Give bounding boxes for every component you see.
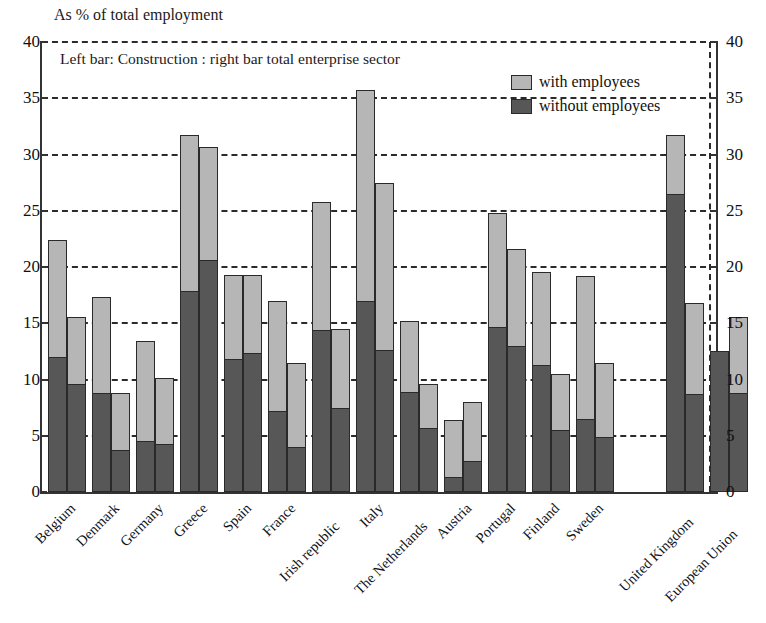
- bar-segment-without-employees: [48, 357, 67, 492]
- bar-total-enterprise-sector: [287, 363, 306, 492]
- bar-segment-without-employees: [685, 394, 704, 492]
- category-label: Sweden: [454, 500, 607, 623]
- tick-label-right: 30: [726, 146, 756, 163]
- tick-label-right: 5: [726, 427, 756, 444]
- bar-segment-without-employees: [666, 194, 685, 492]
- tick-label-right: 15: [726, 314, 756, 331]
- x-axis-category-labels: BelgiumDenmarkGermanyGreeceSpainFranceIr…: [0, 496, 766, 623]
- bar-construction: [312, 202, 331, 492]
- bar-segment-without-employees: [243, 353, 262, 493]
- bar-segment-without-employees: [356, 301, 375, 492]
- bar-construction: [666, 135, 685, 492]
- bar-total-enterprise-sector: [155, 378, 174, 492]
- bar-total-enterprise-sector: [111, 393, 130, 492]
- bar-segment-without-employees: [199, 260, 218, 492]
- bar-construction: [400, 321, 419, 492]
- bar-construction: [136, 341, 155, 492]
- tick-label-right: 10: [726, 371, 756, 388]
- bar-total-enterprise-sector: [463, 402, 482, 492]
- tick-label-left: 10: [10, 371, 40, 388]
- bar-construction: [576, 276, 595, 492]
- bar-segment-without-employees: [312, 330, 331, 492]
- legend-item-without-employees: without employees: [511, 94, 721, 118]
- bar-construction: [180, 135, 199, 492]
- x-axis: [40, 492, 718, 494]
- legend: with employees without employees: [511, 70, 721, 118]
- bar-total-enterprise-sector: [729, 317, 748, 493]
- bar-construction: [532, 272, 551, 493]
- bar-construction: [48, 240, 67, 492]
- legend-label: without employees: [539, 97, 660, 115]
- bar-segment-without-employees: [532, 365, 551, 492]
- bar-segment-without-employees: [595, 437, 614, 492]
- bar-total-enterprise-sector: [419, 384, 438, 492]
- tick-label-left: 25: [10, 202, 40, 219]
- bar-segment-without-employees: [400, 392, 419, 492]
- bar-segment-without-employees: [287, 447, 306, 492]
- chart-title: As % of total employment: [54, 6, 223, 24]
- legend-item-with-employees: with employees: [511, 70, 721, 94]
- bar-segment-without-employees: [224, 359, 243, 492]
- bar-total-enterprise-sector: [507, 249, 526, 492]
- bar-total-enterprise-sector: [331, 329, 350, 492]
- bar-segment-without-employees: [375, 350, 394, 492]
- legend-label: with employees: [539, 73, 640, 91]
- bar-construction: [488, 213, 507, 492]
- bar-construction: [268, 301, 287, 492]
- bar-segment-without-employees: [444, 477, 463, 492]
- bar-segment-without-employees: [92, 393, 111, 492]
- bar-chart: As % of total employment Left bar: Const…: [0, 0, 766, 623]
- tick-label-right: 40: [726, 33, 756, 50]
- tick-label-left: 20: [10, 258, 40, 275]
- bar-segment-without-employees: [155, 444, 174, 492]
- tick-label-left: 5: [10, 427, 40, 444]
- bar-segment-without-employees: [67, 384, 86, 492]
- bar-segment-without-employees: [551, 430, 570, 492]
- bar-total-enterprise-sector: [551, 374, 570, 492]
- bar-segment-without-employees: [419, 428, 438, 492]
- legend-swatch-icon: [511, 99, 532, 114]
- tick-label-left: 35: [10, 89, 40, 106]
- tick-label-right: 35: [726, 89, 756, 106]
- bar-total-enterprise-sector: [199, 147, 218, 492]
- bar-segment-without-employees: [180, 291, 199, 492]
- tick-label-right: 25: [726, 202, 756, 219]
- bar-segment-without-employees: [268, 411, 287, 492]
- bar-total-enterprise-sector: [243, 275, 262, 492]
- tick-label-left: 15: [10, 314, 40, 331]
- tick-label-right: 20: [726, 258, 756, 275]
- tick-label-left: 40: [10, 33, 40, 50]
- bar-construction: [92, 297, 111, 492]
- bar-construction: [224, 275, 243, 492]
- bar-total-enterprise-sector: [375, 183, 394, 492]
- bar-segment-without-employees: [576, 419, 595, 492]
- bar-segment-without-employees: [331, 408, 350, 492]
- bar-segment-without-employees: [488, 327, 507, 492]
- bar-total-enterprise-sector: [685, 303, 704, 492]
- bar-total-enterprise-sector: [595, 363, 614, 492]
- tick-label-left: 30: [10, 146, 40, 163]
- bar-segment-without-employees: [463, 461, 482, 493]
- bar-construction: [444, 420, 463, 492]
- legend-swatch-icon: [511, 75, 532, 90]
- bar-segment-without-employees: [111, 450, 130, 492]
- bar-total-enterprise-sector: [67, 317, 86, 493]
- bar-construction: [356, 90, 375, 492]
- bar-segment-without-employees: [136, 441, 155, 492]
- bar-segment-without-employees: [507, 346, 526, 492]
